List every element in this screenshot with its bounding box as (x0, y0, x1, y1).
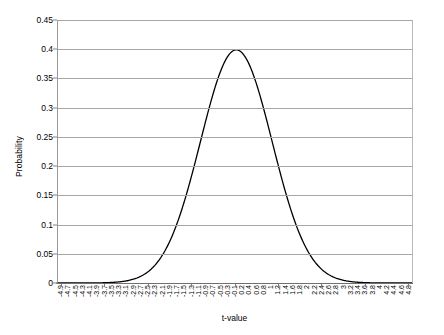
y-tick-mark (53, 253, 57, 254)
x-tick-mark (235, 284, 236, 287)
x-tick-label: 3.8 (369, 285, 376, 295)
y-tick-mark (53, 136, 57, 137)
gridline (57, 137, 412, 138)
x-tick-label: -0.3 (224, 285, 231, 297)
x-axis-title: t-value (57, 313, 412, 323)
y-tick-label: 0.2 (41, 161, 53, 171)
x-tick-label: 2.8 (332, 285, 339, 295)
plot-area (57, 20, 412, 283)
gridline (57, 78, 412, 79)
y-tick-mark (53, 166, 57, 167)
x-tick-label: 2 (303, 285, 310, 289)
x-tick-mark (408, 284, 409, 287)
x-tick-label: -4.3 (79, 285, 86, 297)
plot-border-right (412, 20, 413, 284)
x-tick-label: -1.9 (166, 285, 173, 297)
y-tick-label: 0.3 (41, 103, 53, 113)
gridline (57, 254, 412, 255)
y-tick-label: 0.4 (41, 44, 53, 54)
x-tick-label: -0.9 (202, 285, 209, 297)
gridline (57, 20, 412, 21)
x-tick-label: -4.5 (72, 285, 79, 297)
y-tick-label: 0.05 (36, 249, 53, 259)
x-tick-label: 1.4 (282, 285, 289, 295)
gridline (57, 195, 412, 196)
t-distribution-chart: Probability 00.050.10.150.20.250.30.350.… (0, 0, 444, 335)
x-tick-label: -2.1 (159, 285, 166, 297)
y-axis-tick-labels: 00.050.10.150.20.250.30.350.40.45 (26, 20, 53, 283)
x-tick-label: 2.2 (311, 285, 318, 295)
x-tick-label: -4.7 (64, 285, 71, 297)
y-tick-label: 0.45 (36, 15, 53, 25)
y-tick-mark (53, 49, 57, 50)
x-tick-label: -1.1 (195, 285, 202, 297)
x-tick-mark (148, 284, 149, 287)
x-tick-label: 0.6 (253, 285, 260, 295)
x-tick-label: -1.7 (173, 285, 180, 297)
y-tick-mark (53, 107, 57, 108)
gridline (57, 225, 412, 226)
x-tick-label: -2.7 (137, 285, 144, 297)
x-tick-label: -3.9 (93, 285, 100, 297)
x-tick-label: 1.6 (289, 285, 296, 295)
x-tick-mark (321, 284, 322, 287)
x-tick-label: -1.5 (180, 285, 187, 297)
x-tick-label: -3.1 (122, 285, 129, 297)
x-axis-tick-labels: -4.9-4.7-4.5-4.3-4.1-3.9-3.7-3.5-3.3-3.1… (57, 284, 412, 310)
x-tick-label: 0.8 (260, 285, 267, 295)
y-tick-mark (53, 195, 57, 196)
x-tick-mark (61, 284, 62, 287)
gridline (57, 108, 412, 109)
x-tick-label: 3 (340, 285, 347, 289)
x-tick-label: -2.9 (130, 285, 137, 297)
x-tick-mark (365, 284, 366, 287)
probability-density-curve (57, 20, 412, 283)
x-tick-label: 4 (376, 285, 383, 289)
x-tick-label: -3.5 (108, 285, 115, 297)
x-tick-label: -0.5 (217, 285, 224, 297)
x-tick-mark (191, 284, 192, 287)
x-tick-label: 3.2 (347, 285, 354, 295)
y-tick-mark (53, 20, 57, 21)
y-tick-label: 0.1 (41, 220, 53, 230)
gridline (57, 49, 412, 50)
y-tick-label: 0.25 (36, 132, 53, 142)
plot-border-left (57, 20, 58, 284)
x-tick-label: 0.4 (245, 285, 252, 295)
x-tick-label: -2.3 (151, 285, 158, 297)
x-tick-mark (278, 284, 279, 287)
gridline (57, 166, 412, 167)
x-tick-label: -0.7 (209, 285, 216, 297)
y-tick-mark (53, 283, 57, 284)
y-tick-mark (53, 78, 57, 79)
y-tick-label: 0.15 (36, 190, 53, 200)
x-tick-label: 4.6 (398, 285, 405, 295)
y-tick-label: 0.35 (36, 73, 53, 83)
y-tick-mark (53, 224, 57, 225)
x-tick-label: 4.4 (390, 285, 397, 295)
x-tick-mark (104, 284, 105, 287)
